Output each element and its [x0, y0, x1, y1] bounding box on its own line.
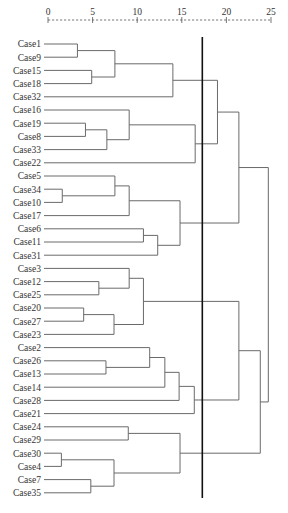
case-label: Case23 [13, 330, 41, 340]
case-label: Case22 [13, 158, 41, 168]
merge-branch-m20 [44, 315, 114, 335]
case-label: Case15 [13, 66, 41, 76]
case-label: Case4 [18, 462, 41, 472]
case-label: Case3 [18, 264, 41, 274]
case-label: Case2 [18, 343, 41, 353]
dendrogram-branches [44, 44, 268, 493]
case-label: Case6 [18, 224, 41, 234]
case-label: Case16 [13, 105, 41, 115]
case-labels: Case1Case9Case15Case18Case32Case16Case19… [13, 39, 41, 498]
merge-branch-m33 [180, 351, 260, 454]
x-axis: 0510152025 [46, 7, 276, 23]
case-label: Case29 [13, 435, 41, 445]
dendrogram-chart: 0510152025 Case1Case9Case15Case18Case32C… [0, 0, 288, 513]
merge-branch-m7 [44, 110, 129, 140]
merge-branch-m15 [129, 201, 180, 246]
merge-branch-m10 [44, 189, 62, 202]
merge-branch-m18 [44, 268, 129, 288]
case-label: Case5 [18, 171, 41, 181]
case-label: Case26 [13, 356, 41, 366]
merge-branch-m27 [143, 301, 238, 400]
case-label: Case32 [13, 92, 41, 102]
merge-branch-m14 [44, 235, 158, 255]
case-label: Case31 [13, 251, 41, 261]
case-label: Case21 [13, 409, 41, 419]
case-label: Case20 [13, 303, 41, 313]
case-label: Case24 [13, 422, 41, 432]
case-label: Case28 [13, 396, 41, 406]
case-label: Case11 [13, 237, 41, 247]
merge-branch-m16 [180, 112, 239, 223]
case-label: Case12 [13, 277, 41, 287]
case-label: Case14 [13, 383, 41, 393]
merge-branch-m4 [44, 64, 173, 97]
case-label: Case30 [13, 449, 41, 459]
merge-branch-m17 [44, 282, 99, 295]
case-label: Case19 [13, 119, 41, 129]
tick-label: 0 [46, 7, 51, 17]
merge-branch-m2 [44, 70, 92, 83]
tick-label: 5 [90, 7, 95, 17]
merge-branch-m22 [44, 361, 106, 374]
merge-branch-m23 [44, 348, 150, 368]
merge-branch-m24 [44, 358, 165, 388]
case-label: Case9 [18, 53, 41, 63]
merge-branch-m12 [44, 186, 129, 216]
case-label: Case13 [13, 369, 41, 379]
merge-branch-m19 [44, 308, 84, 321]
merge-branch-m30 [44, 480, 91, 493]
case-label: Case35 [13, 488, 41, 498]
tick-label: 20 [222, 7, 232, 17]
merge-branch-m28 [44, 427, 128, 440]
tick-label: 10 [132, 7, 142, 17]
case-label: Case10 [13, 198, 41, 208]
merge-branch-m5 [44, 123, 85, 136]
tick-label: 25 [266, 7, 276, 17]
merge-branch-m13 [44, 229, 143, 242]
case-label: Case18 [13, 79, 41, 89]
case-label: Case1 [18, 39, 41, 49]
merge-branch-m11 [44, 176, 115, 196]
merge-branch-m8 [44, 125, 195, 163]
case-label: Case8 [18, 132, 41, 142]
case-label: Case27 [13, 317, 41, 327]
tick-label: 15 [177, 7, 187, 17]
case-label: Case34 [13, 185, 41, 195]
merge-branch-m29 [44, 453, 61, 466]
merge-branch-m31 [61, 460, 114, 486]
case-label: Case33 [13, 145, 41, 155]
merge-branch-m1 [44, 44, 77, 57]
merge-branch-m32 [114, 433, 180, 473]
merge-branch-m3 [77, 51, 114, 77]
merge-branch-m34 [239, 168, 268, 402]
merge-branch-m6 [44, 130, 107, 150]
case-label: Case7 [18, 475, 41, 485]
case-label: Case17 [13, 211, 41, 221]
merge-branch-m25 [44, 372, 179, 400]
case-label: Case25 [13, 290, 41, 300]
